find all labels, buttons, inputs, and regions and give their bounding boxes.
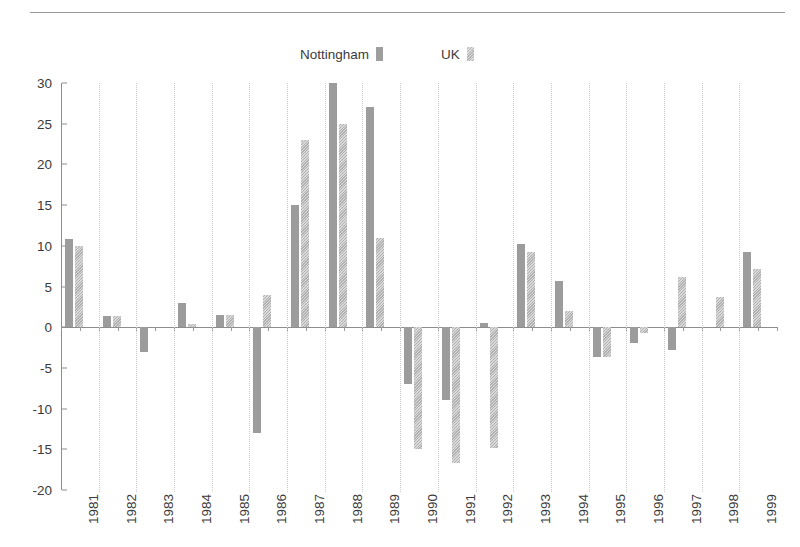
y-axis-tick-label: -15 — [32, 442, 52, 457]
y-axis-tick-label: -10 — [32, 401, 52, 416]
bar-nottingham-1989 — [366, 107, 374, 327]
bar-group — [626, 83, 664, 490]
x-axis-label-1995: 1995 — [613, 494, 628, 524]
bar-group — [513, 83, 551, 490]
legend-item-uk: UK — [441, 47, 474, 62]
bar-group — [739, 83, 777, 490]
legend-item-nottingham: Nottingham — [300, 47, 383, 62]
bar-nottingham-1999 — [743, 252, 751, 327]
y-axis-tick-label: 20 — [37, 157, 52, 172]
bar-uk-1989 — [376, 238, 384, 328]
bar-group — [287, 83, 325, 490]
bar-nottingham-1985 — [216, 315, 224, 327]
chart-page: Nottingham UK 302520151050-5-10-15-20 19… — [0, 0, 800, 547]
y-axis-tick-label: 30 — [37, 76, 52, 91]
x-axis-label-1986: 1986 — [274, 494, 289, 524]
bar-group — [362, 83, 400, 490]
y-axis-tick-label: 5 — [44, 279, 52, 294]
bar-group — [476, 83, 514, 490]
bar-uk-1992 — [490, 327, 498, 447]
y-axis-tick-label: 15 — [37, 198, 52, 213]
bar-uk-1999 — [753, 269, 761, 328]
bar-nottingham-1981 — [65, 239, 73, 327]
x-axis-label-1989: 1989 — [387, 494, 402, 524]
bar-group — [702, 83, 740, 490]
y-axis-tick-label: -5 — [40, 360, 52, 375]
bar-group — [249, 83, 287, 490]
x-axis-tick — [777, 327, 778, 331]
x-axis-label-1987: 1987 — [312, 494, 327, 524]
solid-swatch-icon — [376, 47, 383, 61]
bar-group — [174, 83, 212, 490]
bar-group — [400, 83, 438, 490]
bar-group — [99, 83, 137, 490]
bar-uk-1986 — [263, 295, 271, 328]
y-axis-tick-label: -20 — [32, 483, 52, 498]
bar-uk-1982 — [113, 316, 121, 327]
bar-uk-1987 — [301, 140, 309, 327]
bar-nottingham-1986 — [253, 327, 261, 433]
x-axis-label-1991: 1991 — [463, 494, 478, 524]
x-axis-label-1999: 1999 — [764, 494, 779, 524]
bar-nottingham-1991 — [442, 327, 450, 400]
bar-nottingham-1988 — [329, 83, 337, 327]
bar-nottingham-1992 — [480, 323, 488, 327]
bar-nottingham-1984 — [178, 303, 186, 327]
bar-uk-1997 — [678, 277, 686, 327]
bar-uk-1988 — [339, 124, 347, 328]
y-axis-tick-label: 10 — [37, 238, 52, 253]
bar-group — [551, 83, 589, 490]
bar-uk-1994 — [565, 311, 573, 327]
bar-nottingham-1994 — [555, 281, 563, 327]
bar-group — [664, 83, 702, 490]
bar-uk-1993 — [527, 252, 535, 327]
x-axis-label-1993: 1993 — [538, 494, 553, 524]
bar-nottingham-1983 — [140, 327, 148, 351]
bar-group — [589, 83, 627, 490]
bar-uk-1981 — [75, 246, 83, 327]
bar-nottingham-1987 — [291, 205, 299, 327]
plot-area: 302520151050-5-10-15-20 1981198219831984… — [61, 83, 777, 490]
bar-uk-1984 — [188, 324, 196, 327]
bar-group — [136, 83, 174, 490]
x-axis-label-1985: 1985 — [237, 494, 252, 524]
bar-nottingham-1995 — [593, 327, 601, 357]
bar-group — [438, 83, 476, 490]
x-axis-label-1981: 1981 — [86, 494, 101, 524]
x-axis-label-1982: 1982 — [124, 494, 139, 524]
legend-label-uk: UK — [441, 47, 460, 62]
top-divider-rule — [30, 12, 785, 13]
bar-group — [212, 83, 250, 490]
legend-label-nottingham: Nottingham — [300, 47, 369, 62]
hatched-swatch-icon — [467, 47, 474, 61]
bar-nottingham-1996 — [630, 327, 638, 343]
bar-nottingham-1990 — [404, 327, 412, 384]
bar-nottingham-1982 — [103, 316, 111, 327]
bar-nottingham-1997 — [668, 327, 676, 350]
x-axis-label-1992: 1992 — [500, 494, 515, 524]
x-axis-label-1990: 1990 — [425, 494, 440, 524]
x-axis-label-1994: 1994 — [576, 494, 591, 524]
chart-legend: Nottingham UK — [300, 44, 474, 64]
x-axis-label-1996: 1996 — [651, 494, 666, 524]
bar-uk-1990 — [414, 327, 422, 449]
x-axis-label-1983: 1983 — [161, 494, 176, 524]
bar-uk-1998 — [716, 297, 724, 327]
bar-nottingham-1993 — [517, 244, 525, 327]
bar-uk-1996 — [640, 327, 648, 333]
bar-group — [325, 83, 363, 490]
x-axis-label-1984: 1984 — [199, 494, 214, 524]
bar-group — [61, 83, 99, 490]
bar-uk-1985 — [226, 315, 234, 327]
y-axis-tick-label: 25 — [37, 116, 52, 131]
y-axis-tick-label: 0 — [44, 320, 52, 335]
bar-uk-1991 — [452, 327, 460, 463]
x-axis-label-1998: 1998 — [726, 494, 741, 524]
x-axis-label-1988: 1988 — [350, 494, 365, 524]
x-axis-label-1997: 1997 — [689, 494, 704, 524]
bar-uk-1995 — [603, 327, 611, 357]
